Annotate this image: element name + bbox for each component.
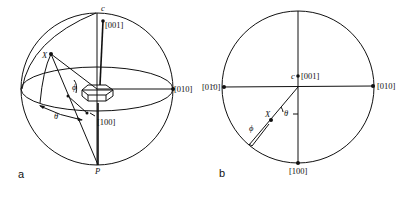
label-p-a: P [94, 166, 100, 176]
panel-a-sphere [21, 13, 175, 165]
point-0m10-b [222, 85, 226, 89]
label-100-a: [100] [97, 117, 116, 127]
point-100 [86, 112, 89, 115]
panel-label-b: b [219, 167, 225, 179]
panel-b-stereogram [222, 11, 375, 165]
stereographic-projection-figure: [001] c [010] [100] X P θ ϕ a c [001] [0… [0, 0, 413, 201]
label-001-a: [001] [105, 20, 124, 30]
x-to-pole-line [51, 54, 98, 165]
label-phi-b: ϕ [249, 123, 254, 133]
label-100-b: [100] [289, 166, 308, 176]
label-c-b: c [291, 71, 295, 81]
label-010-b: [010] [377, 81, 396, 91]
label-theta-b: θ [284, 108, 288, 118]
radial-line-b [249, 87, 298, 145]
meridian-through-x [40, 54, 51, 103]
phi-bracket [252, 124, 269, 146]
c-axis-line [100, 21, 103, 85]
point-001-b [296, 74, 300, 78]
theta-arc-b [281, 107, 283, 112]
panel-label-a: a [18, 168, 25, 180]
label-0m10-b: [01̄0] [202, 82, 221, 92]
great-circle-arc [22, 13, 96, 89]
label-c-a: c [101, 3, 105, 13]
pointer-100 [90, 113, 95, 116]
label-010-a: [010] [174, 84, 193, 94]
label-x-b: X [264, 109, 271, 119]
label-x-a: X [41, 50, 48, 60]
point-010-b [371, 84, 375, 88]
label-phi-a: ϕ [72, 82, 77, 92]
point-100-b [296, 161, 300, 165]
label-theta-a: θ [54, 111, 58, 121]
label-001-b: [001] [301, 71, 320, 81]
